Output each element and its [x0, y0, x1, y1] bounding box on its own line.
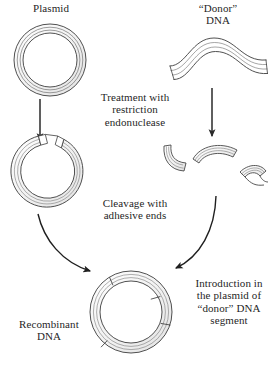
label-introduction-in-plasmid: Introduction in the plasmid of “donor” D…: [186, 277, 272, 326]
donor-dna-wave: [170, 38, 268, 80]
label-donor-dna: “Donor” DNA: [176, 2, 260, 27]
intact-plasmid: [14, 24, 86, 96]
label-plasmid: Plasmid: [8, 2, 94, 14]
figure-canvas: Plasmid “Donor” DNA Treatment with restr…: [0, 0, 274, 367]
arrow-cut-plasmid-to-recombinant: [38, 214, 90, 271]
label-cleavage-with-adhesive-ends: Cleavage with adhesive ends: [78, 197, 192, 222]
dna-fragment-right: [240, 165, 268, 185]
cut-plasmid-open-ring: [11, 134, 83, 207]
dna-fragment-middle: [193, 145, 237, 163]
recombinant-plasmid: [90, 271, 172, 353]
label-treatment-with-restriction-endonuclease: Treatment with restriction endonuclease: [78, 91, 192, 128]
dna-fragment-left: [164, 145, 186, 171]
label-recombinant-dna: Recombinant DNA: [2, 318, 96, 343]
